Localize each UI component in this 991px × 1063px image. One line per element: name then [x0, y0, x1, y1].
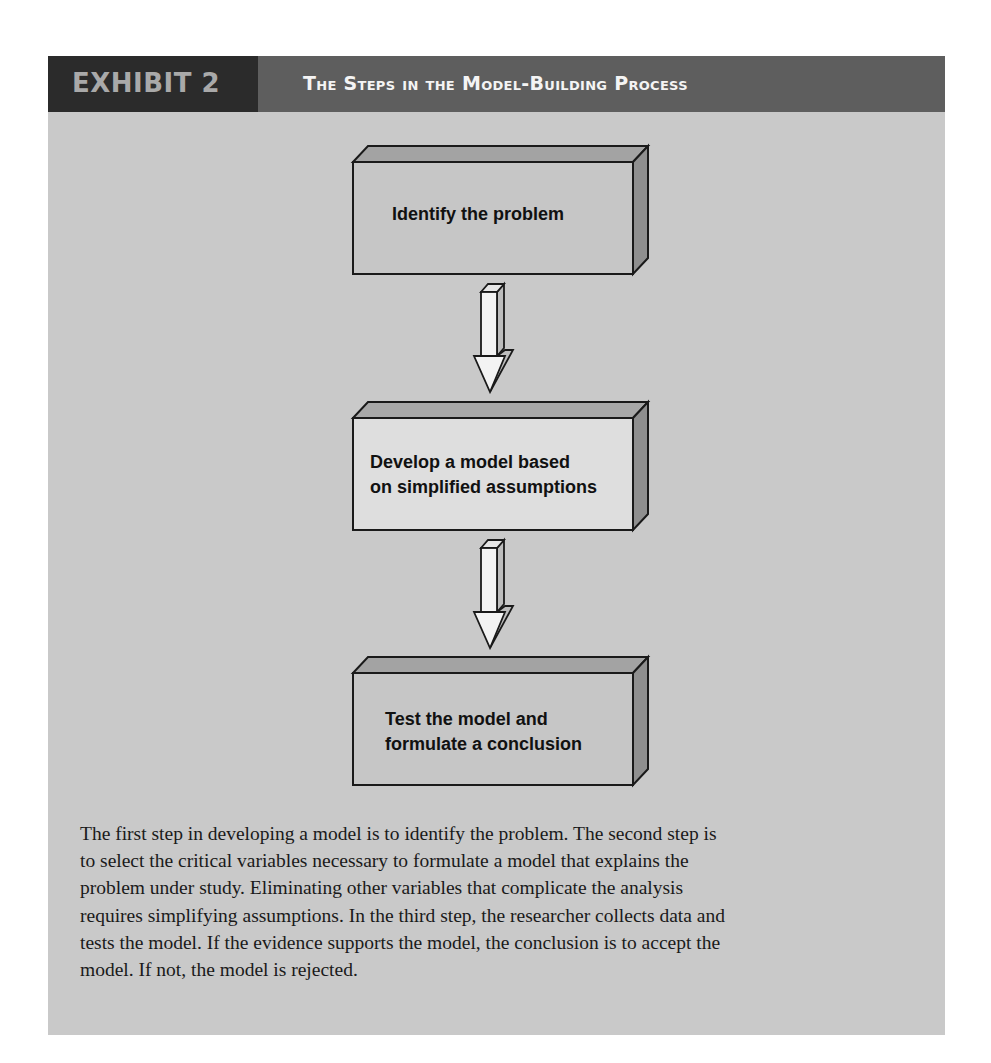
caption-line: model. If not, the model is rejected. — [80, 956, 940, 983]
step-2-label-line-2: on simplified assumptions — [370, 475, 597, 500]
step-3-label-line-2: formulate a conclusion — [385, 732, 582, 757]
step-3-label-line-1: Test the model and — [385, 707, 582, 732]
exhibit-caption: The first step in developing a model is … — [80, 820, 940, 983]
caption-line: The first step in developing a model is … — [80, 820, 940, 847]
down-arrow-icon — [474, 284, 513, 392]
down-arrow-icon — [474, 540, 513, 648]
step-2-label: Develop a model based on simplified assu… — [370, 450, 597, 500]
caption-line: to select the critical variables necessa… — [80, 847, 940, 874]
step-3-label: Test the model and formulate a conclusio… — [385, 707, 582, 757]
caption-line: problem under study. Eliminating other v… — [80, 874, 940, 901]
caption-line: tests the model. If the evidence support… — [80, 929, 940, 956]
caption-line: requires simplifying assumptions. In the… — [80, 902, 940, 929]
step-1-label-line-1: Identify the problem — [392, 204, 564, 224]
step-1-label: Identify the problem — [392, 202, 564, 227]
step-2-label-line-1: Develop a model based — [370, 450, 597, 475]
